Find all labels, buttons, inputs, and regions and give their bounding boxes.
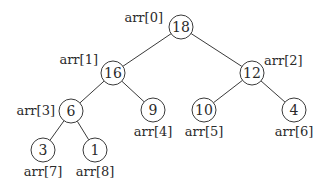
tree-node-6: 4	[282, 98, 306, 122]
edge-2-5	[214, 80, 243, 102]
array-index-label: arr[7]	[24, 164, 63, 179]
node-value: 12	[243, 65, 261, 81]
edge-2-6	[261, 81, 285, 102]
edge-0-1	[123, 34, 171, 67]
edge-1-4	[122, 81, 144, 102]
tree-node-2: 12	[240, 61, 264, 85]
array-index-label: arr[0]	[124, 10, 163, 25]
heap-tree-diagram: 1816126910431 arr[0]arr[1]arr[2]arr[3]ar…	[0, 0, 333, 191]
array-index-label: arr[3]	[16, 103, 55, 118]
node-value: 9	[149, 102, 158, 118]
array-index-label: arr[8]	[76, 164, 115, 179]
tree-node-5: 10	[192, 98, 216, 122]
node-value: 18	[172, 19, 190, 35]
tree-node-7: 3	[31, 138, 55, 162]
array-index-label: arr[1]	[59, 52, 98, 67]
array-index-label: arr[2]	[264, 53, 303, 68]
node-value: 6	[67, 103, 76, 119]
node-value: 1	[91, 142, 100, 158]
array-index-label: arr[4]	[134, 124, 173, 139]
node-value: 10	[195, 102, 213, 118]
tree-node-8: 1	[83, 138, 107, 162]
node-value: 4	[290, 102, 299, 118]
node-value: 16	[104, 65, 122, 81]
tree-node-1: 16	[101, 61, 125, 85]
edge-0-2	[191, 34, 242, 67]
edge-1-3	[80, 81, 104, 103]
array-index-label: arr[6]	[275, 124, 314, 139]
edge-3-7	[50, 121, 64, 141]
labels-group: arr[0]arr[1]arr[2]arr[3]arr[4]arr[5]arr[…	[16, 10, 313, 179]
tree-node-0: 18	[169, 15, 193, 39]
edge-3-8	[77, 121, 88, 140]
nodes-group: 1816126910431	[31, 15, 306, 162]
tree-node-4: 9	[141, 98, 165, 122]
node-value: 3	[39, 142, 48, 158]
array-index-label: arr[5]	[185, 124, 224, 139]
tree-node-3: 6	[59, 99, 83, 123]
